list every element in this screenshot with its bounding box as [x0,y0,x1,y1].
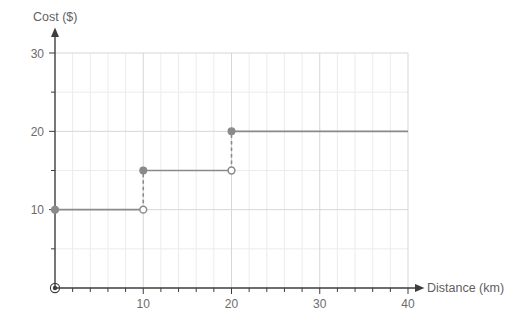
open-circle-marker [140,206,147,213]
x-tick-label: 30 [313,297,327,311]
closed-circle-marker [228,128,235,135]
closed-circle-marker [52,206,59,213]
chart-canvas: 10203040 102030 Distance (km) Cost ($) [0,0,527,323]
open-circle-marker [228,167,235,174]
y-tick-label: 30 [31,47,45,61]
step-function-chart: 10203040 102030 Distance (km) Cost ($) [0,0,527,323]
y-tick-label: 20 [31,125,45,139]
y-axis-title: Cost ($) [33,10,77,24]
closed-circle-marker [140,167,147,174]
x-axis-title: Distance (km) [427,281,504,295]
origin-inner-dot [53,286,57,290]
y-tick-label: 10 [31,203,45,217]
x-tick-label: 20 [225,297,239,311]
chart-background [0,0,527,323]
x-tick-label: 10 [137,297,151,311]
x-tick-label: 40 [401,297,415,311]
